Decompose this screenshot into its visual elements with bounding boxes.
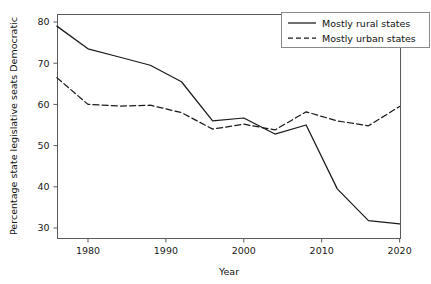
chart-legend: Mostly rural states Mostly urban states — [282, 13, 430, 48]
x-axis-ticks: 19801990200020102020 — [76, 239, 412, 256]
x-tick-label: 1980 — [76, 245, 100, 256]
legend-label-urban: Mostly urban states — [322, 33, 416, 44]
legend-label-rural: Mostly rural states — [322, 18, 410, 29]
chart-container: 304050607080 19801990200020102020 Percen… — [0, 0, 431, 284]
y-axis-ticks: 304050607080 — [37, 16, 57, 233]
x-tick-label: 2010 — [310, 245, 334, 256]
series-path-dashed — [57, 78, 400, 130]
x-axis-title: Year — [218, 266, 239, 277]
line-chart: 304050607080 19801990200020102020 Percen… — [0, 0, 431, 284]
x-tick-label: 2020 — [388, 245, 412, 256]
y-tick-label: 60 — [37, 99, 49, 110]
series-path-solid — [57, 26, 400, 224]
y-axis-title: Percentage state legislative seats Democ… — [8, 17, 19, 235]
y-tick-label: 80 — [37, 16, 49, 27]
x-tick-label: 2000 — [232, 245, 256, 256]
x-tick-label: 1990 — [154, 245, 178, 256]
y-tick-label: 30 — [37, 222, 49, 233]
y-tick-label: 70 — [37, 58, 49, 69]
y-tick-label: 50 — [37, 140, 49, 151]
series-group — [57, 26, 400, 224]
y-tick-label: 40 — [37, 181, 49, 192]
